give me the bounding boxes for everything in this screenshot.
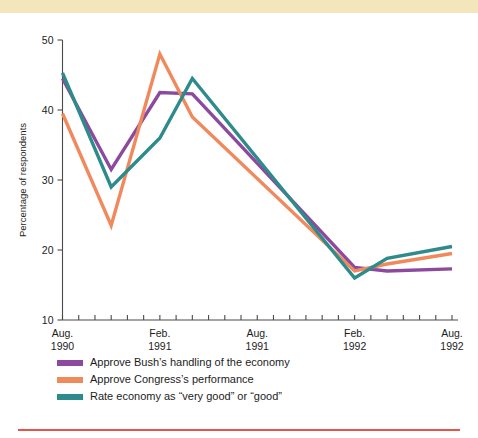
legend-item[interactable]: Rate economy as “very good” or “good” xyxy=(57,388,290,405)
x-axis-tick-label-month: Feb. xyxy=(149,327,170,339)
y-axis-tick-label: 30 xyxy=(42,174,54,186)
y-axis-title-text: Percentage of respondents xyxy=(17,123,28,237)
legend-item[interactable]: Approve Bush’s handling of the economy xyxy=(57,354,290,371)
x-axis-tick-labels: Aug.1990Feb.1991Aug.1991Feb.1992Aug.1992 xyxy=(51,327,464,352)
x-axis-tick-label-year: 1992 xyxy=(343,340,367,352)
x-axis-tick-label-month: Aug. xyxy=(441,327,463,339)
legend-item-label: Approve Bush’s handling of the economy xyxy=(90,354,290,371)
series-line-0 xyxy=(63,79,453,272)
legend-color-swatch xyxy=(57,360,83,366)
x-axis-tick-label-month: Aug. xyxy=(52,327,74,339)
series-line-2 xyxy=(63,73,453,278)
x-axis-tick-label-month: Aug. xyxy=(246,327,268,339)
legend-item-label: Rate economy as “very good” or “good” xyxy=(90,388,282,405)
x-axis-tick-label-year: 1990 xyxy=(51,340,75,352)
x-axis-tick-label-month: Feb. xyxy=(344,327,365,339)
legend-color-swatch xyxy=(57,377,83,383)
legend-item-label: Approve Congress’s performance xyxy=(90,371,254,388)
y-axis-tick-label: 50 xyxy=(42,34,54,46)
x-axis-tick-label-year: 1992 xyxy=(440,340,464,352)
chart-legend: Approve Bush’s handling of the economyAp… xyxy=(57,354,290,405)
x-axis-tick-label-year: 1991 xyxy=(246,340,270,352)
y-axis-tick-labels: 1020304050 xyxy=(42,34,54,326)
y-axis-tick-label: 10 xyxy=(42,314,54,326)
legend-color-swatch xyxy=(57,394,83,400)
y-axis-tick-label: 20 xyxy=(42,244,54,256)
bottom-divider-rule xyxy=(18,429,460,431)
top-decorative-band xyxy=(0,0,478,13)
y-axis-title: Percentage of respondents xyxy=(17,123,28,237)
x-axis-tick-label-year: 1991 xyxy=(148,340,172,352)
chart-series-group xyxy=(63,54,453,278)
legend-item[interactable]: Approve Congress’s performance xyxy=(57,371,290,388)
y-axis-tick-label: 40 xyxy=(42,104,54,116)
